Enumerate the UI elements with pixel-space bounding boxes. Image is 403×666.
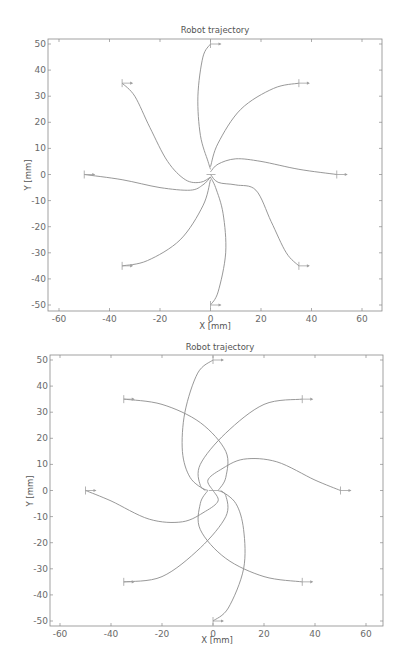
- y-tick-label: 50: [37, 355, 49, 365]
- x-tick-label: -40: [102, 314, 117, 324]
- trajectory-line: [213, 491, 245, 622]
- y-tick-label: -20: [33, 538, 48, 548]
- start-pose-marker-icon: [302, 578, 313, 586]
- plot-bottom: Robot trajectory -60-40-200204060-50-40-…: [25, 342, 383, 645]
- x-tick-label: -20: [155, 629, 170, 639]
- figure-canvas: Robot trajectory -60-40-200204060-50-40-…: [0, 0, 403, 666]
- x-tick-label: -40: [104, 629, 119, 639]
- y-tick-label: 30: [37, 407, 49, 417]
- start-pose-marker-icon: [337, 171, 348, 179]
- y-tick-label: 20: [37, 433, 49, 443]
- y-tick-label: -30: [33, 564, 48, 574]
- y-axis-label: Y [mm]: [23, 159, 33, 191]
- y-tick-label: -10: [33, 512, 48, 522]
- y-tick-label: 0: [42, 486, 48, 496]
- y-axis-label: Y [mm]: [25, 475, 35, 507]
- start-pose-marker-icon: [299, 262, 310, 270]
- trajectory-line: [182, 360, 213, 491]
- y-tick-label: -30: [31, 248, 46, 258]
- x-tick-label: 20: [255, 314, 267, 324]
- plot-top: Robot trajectory -60-40-200204060-50-40-…: [23, 25, 382, 331]
- start-pose-marker-icon: [213, 617, 224, 625]
- start-pose-marker-icon: [211, 301, 222, 309]
- y-tick-label: -40: [31, 274, 46, 284]
- x-tick-label: 20: [258, 629, 270, 639]
- trajectory-line: [124, 491, 228, 582]
- y-tick-label: 20: [35, 117, 47, 127]
- start-pose-marker-icon: [122, 262, 133, 270]
- x-tick-label: 60: [356, 314, 368, 324]
- x-tick-label: -60: [52, 314, 67, 324]
- y-tick-label: -50: [33, 616, 48, 626]
- start-pose-marker-icon: [84, 171, 95, 179]
- trajectory-line: [198, 399, 302, 490]
- x-tick-label: 40: [306, 314, 318, 324]
- trajectory-line: [124, 399, 228, 490]
- trajectory-line: [122, 83, 210, 182]
- start-markers: [84, 40, 348, 309]
- start-pose-marker-icon: [341, 487, 352, 495]
- start-pose-marker-icon: [124, 395, 135, 403]
- y-tick-label: 30: [35, 91, 47, 101]
- y-tick-label: 10: [37, 459, 49, 469]
- trajectory-line: [198, 491, 302, 582]
- axis-ticks: -60-40-200204060-50-40-30-20-10010203040…: [33, 355, 383, 639]
- x-tick-label: -20: [153, 314, 168, 324]
- trajectory-line: [198, 44, 211, 169]
- y-tick-label: -10: [31, 196, 46, 206]
- plot-frame: [48, 39, 382, 311]
- y-tick-label: 0: [40, 170, 46, 180]
- x-tick-label: 60: [360, 629, 372, 639]
- trajectory-line: [211, 177, 226, 305]
- y-tick-label: 50: [35, 39, 47, 49]
- x-axis-label: X [mm]: [199, 321, 231, 331]
- y-tick-label: 10: [35, 143, 47, 153]
- x-tick-label: 40: [309, 629, 321, 639]
- start-pose-marker-icon: [299, 79, 310, 87]
- x-axis-label: X [mm]: [201, 635, 233, 645]
- plot-title: Robot trajectory: [181, 25, 250, 35]
- y-tick-label: -50: [31, 300, 46, 310]
- trajectory-line: [211, 159, 337, 175]
- start-pose-marker-icon: [302, 395, 313, 403]
- y-tick-label: -20: [31, 222, 46, 232]
- start-pose-marker-icon: [211, 40, 222, 48]
- x-tick-label: -60: [53, 629, 68, 639]
- start-pose-marker-icon: [124, 578, 135, 586]
- y-tick-label: 40: [35, 65, 47, 75]
- y-tick-label: 40: [37, 381, 49, 391]
- trajectory-line: [211, 83, 299, 167]
- start-pose-marker-icon: [122, 79, 133, 87]
- y-tick-label: -40: [33, 590, 48, 600]
- plot-title: Robot trajectory: [186, 342, 255, 352]
- trajectory-line: [122, 180, 210, 266]
- start-pose-marker-icon: [86, 487, 97, 495]
- start-pose-marker-icon: [213, 356, 224, 364]
